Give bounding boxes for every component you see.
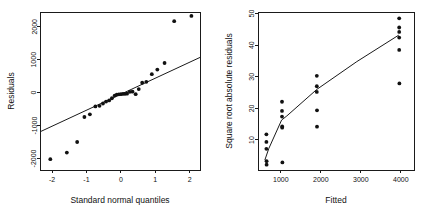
plot-box xyxy=(40,12,200,170)
trend-line xyxy=(265,35,399,160)
x-tick-label: 2000 xyxy=(313,176,329,183)
data-point xyxy=(280,100,284,104)
x-tick-label: 0 xyxy=(119,176,123,183)
data-point xyxy=(150,72,154,76)
y-tick-label: 50 xyxy=(249,10,256,18)
data-points xyxy=(48,14,193,161)
data-point xyxy=(315,84,319,88)
y-tick-label: 30 xyxy=(249,73,256,81)
data-point xyxy=(82,115,86,119)
x-axis-title: Standard normal quantiles xyxy=(70,195,169,205)
x-tick-label: 3000 xyxy=(353,176,369,183)
data-point xyxy=(88,112,92,116)
data-point xyxy=(281,161,285,165)
data-point xyxy=(265,147,269,151)
data-point xyxy=(265,132,269,136)
y-tick-label: -2000 xyxy=(31,149,38,167)
data-point xyxy=(155,68,159,72)
data-point xyxy=(140,81,144,85)
figure-canvas: -2-1012-2000-1000010002000ResidualsStand… xyxy=(0,0,428,209)
data-point xyxy=(280,109,284,113)
data-point xyxy=(190,14,194,18)
data-point xyxy=(397,36,401,40)
data-point xyxy=(98,104,102,108)
data-point xyxy=(315,125,319,129)
data-point xyxy=(131,90,135,94)
data-point xyxy=(65,151,69,155)
data-point xyxy=(315,108,319,112)
data-point xyxy=(94,105,98,109)
data-point xyxy=(280,115,284,119)
y-axis-title: Residuals xyxy=(6,72,16,109)
data-point xyxy=(265,163,269,167)
data-point xyxy=(265,140,269,144)
x-tick-label: 4000 xyxy=(393,176,409,183)
data-point xyxy=(397,16,401,20)
y-tick-label: 20 xyxy=(249,104,256,112)
data-point xyxy=(280,126,284,130)
panel-qq-plot: -2-1012-2000-1000010002000ResidualsStand… xyxy=(6,12,200,205)
x-tick-label: -2 xyxy=(49,176,55,183)
x-tick-label: 1 xyxy=(153,176,157,183)
data-point xyxy=(110,96,114,100)
plot-box xyxy=(258,12,414,170)
data-point xyxy=(397,48,401,52)
y-tick-label: 40 xyxy=(249,41,256,49)
data-point xyxy=(137,87,141,91)
data-point xyxy=(48,157,52,161)
data-points xyxy=(265,16,402,166)
data-point xyxy=(397,30,401,34)
data-point xyxy=(163,61,167,65)
x-tick-label: -1 xyxy=(83,176,89,183)
x-axis-title: Fitted xyxy=(325,195,347,205)
data-point xyxy=(134,92,138,96)
data-point xyxy=(315,74,319,78)
data-point xyxy=(315,90,319,94)
r-diagnostic-figure: -2-1012-2000-1000010002000ResidualsStand… xyxy=(0,0,428,209)
y-tick-label: 2000 xyxy=(31,19,38,35)
y-tick-label: 0 xyxy=(31,91,38,95)
y-tick-label: -1000 xyxy=(31,117,38,135)
data-point xyxy=(144,80,148,84)
y-tick-label: 1000 xyxy=(31,52,38,68)
data-point xyxy=(398,82,402,86)
data-point xyxy=(75,140,79,144)
x-tick-label: 1000 xyxy=(273,176,289,183)
data-point xyxy=(397,26,401,30)
x-tick-label: 2 xyxy=(188,176,192,183)
y-axis-title: Square root absolute residuals xyxy=(224,33,234,148)
panel-scale-location-plot: 10002000300040001020304050Square root ab… xyxy=(224,10,414,205)
data-point xyxy=(172,19,176,23)
data-point xyxy=(265,159,269,163)
y-tick-label: 10 xyxy=(249,136,256,144)
